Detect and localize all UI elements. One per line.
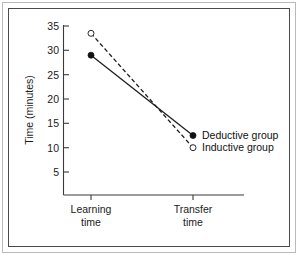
x-tick-label-learning-line2: time	[81, 216, 101, 228]
y-tick-label-5: 5	[53, 166, 59, 178]
series-group	[91, 33, 193, 147]
data-point-deductive-transfer[interactable]	[190, 133, 196, 139]
y-tick-labels: 35 30 25 20 15 10 5	[47, 20, 59, 178]
data-point-inductive-learning[interactable]	[88, 30, 94, 36]
figure-container: 35 30 25 20 15 10 5 Time (minutes) Learn…	[0, 0, 298, 255]
data-point-inductive-transfer[interactable]	[190, 145, 196, 151]
line-chart: 35 30 25 20 15 10 5 Time (minutes) Learn…	[0, 0, 298, 255]
x-tick-label-learning-line1: Learning	[71, 203, 112, 215]
legend-label-deductive: Deductive group	[202, 129, 279, 141]
y-tick-label-15: 15	[47, 117, 59, 129]
x-tick-label-transfer-line2: time	[183, 216, 203, 228]
x-tick-labels: Learning time Transfer time	[71, 203, 213, 228]
y-tick-label-35: 35	[47, 20, 59, 32]
data-point-deductive-learning[interactable]	[88, 52, 94, 58]
y-tick-label-10: 10	[47, 142, 59, 154]
y-tick-label-20: 20	[47, 93, 59, 105]
legend-label-inductive: Inductive group	[202, 141, 274, 153]
legend-group: Deductive group Inductive group	[202, 129, 279, 153]
axes-group	[64, 25, 245, 195]
series-line-deductive	[91, 55, 193, 135]
y-tick-label-30: 30	[47, 44, 59, 56]
x-tick-label-transfer-line1: Transfer	[174, 203, 213, 215]
y-axis-title: Time (minutes)	[23, 75, 35, 145]
x-tick-marks	[91, 195, 193, 200]
series-line-inductive	[91, 33, 193, 147]
y-tick-marks	[64, 26, 70, 172]
y-tick-label-25: 25	[47, 69, 59, 81]
